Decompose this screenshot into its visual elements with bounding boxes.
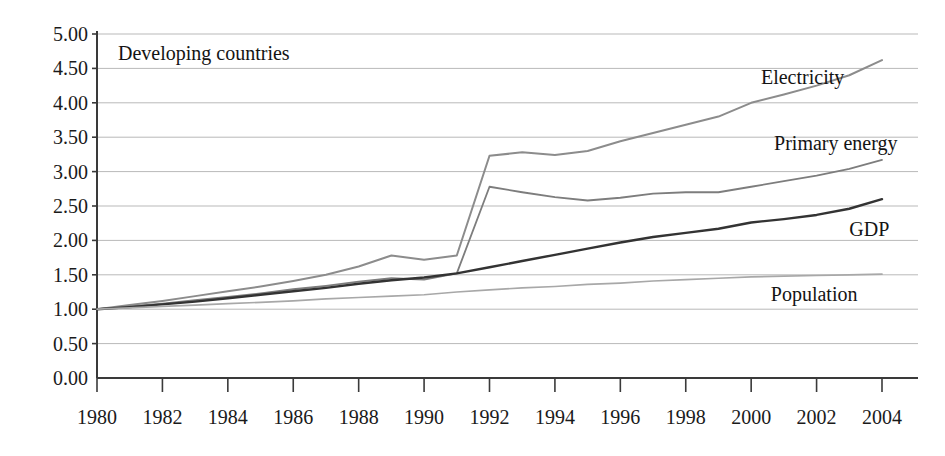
x-tick-label: 1984 xyxy=(208,406,248,428)
series-label-population: Population xyxy=(771,283,858,306)
series-label-primary-energy: Primary energy xyxy=(774,132,898,155)
y-tick-label: 2.00 xyxy=(53,229,88,251)
y-tick-label: 0.50 xyxy=(53,333,88,355)
y-tick-label: 0.00 xyxy=(53,367,88,389)
panel-title: Developing countries xyxy=(118,42,290,65)
x-tick-label: 1994 xyxy=(535,406,575,428)
x-tick-label: 1982 xyxy=(142,406,182,428)
y-tick-label: 3.50 xyxy=(53,126,88,148)
x-tick-labels: 1980198219841986198819901992199419961998… xyxy=(77,406,902,428)
y-tick-label: 4.00 xyxy=(53,92,88,114)
y-tick-label: 5.00 xyxy=(53,23,88,45)
y-tick-label: 3.00 xyxy=(53,161,88,183)
line-chart: 0.000.501.001.502.002.503.003.504.004.50… xyxy=(0,0,945,456)
y-tick-label: 1.00 xyxy=(53,298,88,320)
y-tick-label: 1.50 xyxy=(53,264,88,286)
x-tick-label: 1986 xyxy=(273,406,313,428)
series-label-electricity: Electricity xyxy=(761,66,844,89)
series-label-gdp: GDP xyxy=(849,218,889,240)
x-tick-label: 2000 xyxy=(731,406,771,428)
y-tick-labels: 0.000.501.001.502.002.503.003.504.004.50… xyxy=(53,23,97,389)
y-tick-label: 4.50 xyxy=(53,57,88,79)
x-tick-label: 1992 xyxy=(470,406,510,428)
chart-container: 0.000.501.001.502.002.503.003.504.004.50… xyxy=(0,0,945,456)
x-tick-label: 1996 xyxy=(600,406,640,428)
x-tick-label: 1990 xyxy=(404,406,444,428)
x-tick-label: 1998 xyxy=(666,406,706,428)
series-line-primary-energy xyxy=(97,160,882,309)
x-tick-label: 1980 xyxy=(77,406,117,428)
x-tick-label: 1988 xyxy=(339,406,379,428)
x-tick-label: 2002 xyxy=(797,406,837,428)
series-line-population xyxy=(97,274,882,309)
data-series-lines xyxy=(97,60,882,309)
x-tick-label: 2004 xyxy=(862,406,902,428)
series-labels: ElectricityPrimary energyGDPPopulation xyxy=(761,66,898,306)
y-tick-label: 2.50 xyxy=(53,195,88,217)
